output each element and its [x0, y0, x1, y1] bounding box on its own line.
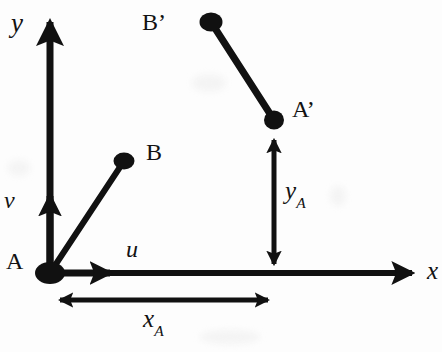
point-b: [114, 153, 135, 170]
point-label-a: A: [6, 249, 23, 273]
rod-ab: [50, 161, 124, 273]
axis-label-y: y: [11, 10, 23, 37]
point-a: [35, 262, 65, 284]
point-a-prime: [264, 111, 284, 130]
dimension-label-x-a-subscript: A: [154, 322, 163, 339]
point-label-a-prime: A’: [292, 97, 315, 121]
dimension-label-x-a-base: x: [143, 305, 154, 332]
dimension-label-y-a: yA: [285, 178, 306, 208]
dimension-label-y-a-subscript: A: [296, 194, 305, 211]
rod-a-prime-b-prime: [211, 22, 274, 120]
axis-label-x: x: [427, 258, 438, 283]
vector-label-v: v: [4, 188, 15, 212]
point-label-b: B: [146, 140, 162, 164]
vector-label-u: u: [126, 237, 138, 261]
dimension-label-y-a-base: y: [285, 177, 296, 204]
point-label-b-prime: B’: [142, 10, 166, 34]
diagram-canvas: y x A B A’ B’ u v xA yA: [0, 0, 442, 352]
point-b-prime: [200, 13, 223, 32]
dimension-label-x-a: xA: [143, 306, 164, 336]
diagram-vector-layer: [0, 0, 442, 352]
